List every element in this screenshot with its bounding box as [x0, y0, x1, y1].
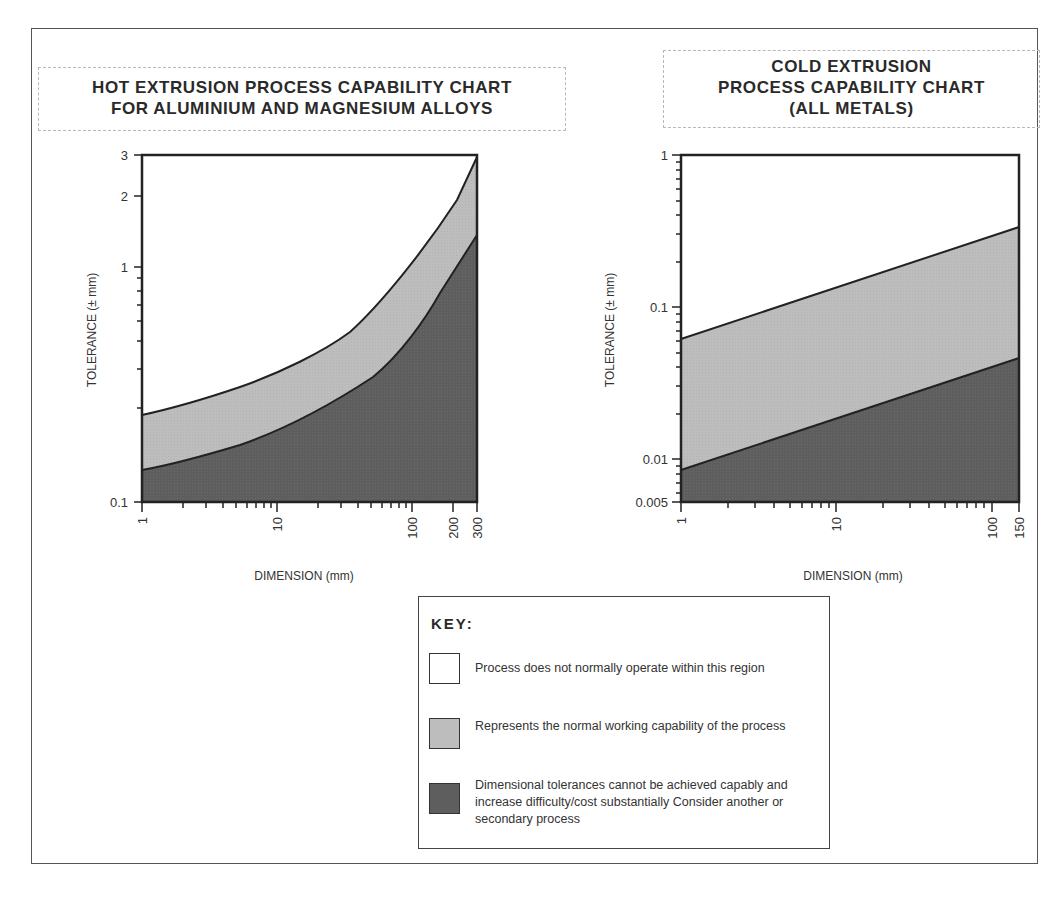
cold-y-tick-0-01: 0.01	[643, 452, 668, 467]
cold-y-tick-0-1: 0.1	[650, 300, 668, 315]
hot-x-tick-1: 1	[135, 517, 150, 524]
hot-x-tick-100: 100	[405, 517, 420, 539]
key-item-text: Represents the normal working capability…	[475, 718, 795, 735]
hot-y-axis-label: TOLERANCE (± mm)	[85, 273, 99, 387]
hot-x-tick-300: 300	[470, 517, 485, 539]
cold-x-tick-1: 1	[674, 517, 689, 524]
cold-x-tick-150: 150	[1012, 517, 1027, 539]
hot-x-ticks	[142, 502, 477, 512]
cold-y-ticks	[672, 155, 681, 502]
dark-grey-swatch	[429, 783, 460, 814]
hot-y-tick-0-1: 0.1	[110, 495, 128, 510]
hot-x-axis-label: DIMENSION (mm)	[254, 569, 353, 583]
cold-x-axis-label: DIMENSION (mm)	[803, 569, 902, 583]
cold-x-tick-100: 100	[985, 517, 1000, 539]
hot-y-tick-1: 1	[121, 260, 128, 275]
cold-extrusion-chart: 1 0.1 0.01 0.005 1 10	[603, 148, 1027, 583]
hot-x-tick-10: 10	[270, 517, 285, 531]
cold-y-tick-1: 1	[661, 148, 668, 163]
cold-x-ticks	[681, 502, 1019, 512]
white-swatch	[429, 653, 460, 684]
hot-extrusion-chart: 3 2 1 0.1 1 10	[85, 148, 485, 583]
legend-key: KEY: Process does not normally operate w…	[418, 596, 830, 849]
cold-y-tick-0-005: 0.005	[635, 495, 668, 510]
cold-x-tick-10: 10	[829, 517, 844, 531]
key-title: KEY:	[431, 615, 474, 632]
hot-y-tick-2: 2	[121, 189, 128, 204]
key-item-text: Process does not normally operate within…	[475, 660, 835, 677]
cold-y-axis-label: TOLERANCE (± mm)	[603, 273, 617, 387]
hot-y-tick-3: 3	[121, 148, 128, 163]
hot-x-tick-200: 200	[446, 517, 461, 539]
key-item-normal: Represents the normal working capability…	[429, 718, 795, 749]
key-item-not-operate: Process does not normally operate within…	[429, 653, 835, 684]
key-item-text: Dimensional tolerances cannot be achieve…	[475, 777, 815, 828]
key-item-difficult: Dimensional tolerances cannot be achieve…	[429, 783, 815, 828]
light-grey-swatch	[429, 718, 460, 749]
